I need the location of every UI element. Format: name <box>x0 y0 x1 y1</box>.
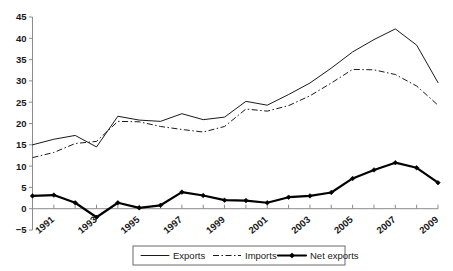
x-axis-tick-label: 2003 <box>289 214 312 236</box>
legend-label-net-exports: Net exports <box>310 250 359 261</box>
data-point-marker <box>265 200 270 205</box>
data-point-marker <box>308 194 313 199</box>
line-chart: −505101520253035404519911993199519971999… <box>0 0 453 271</box>
y-axis-tick-label: −5 <box>16 224 28 235</box>
x-axis-tick-label: 2001 <box>246 213 270 235</box>
y-axis-tick-label: 30 <box>16 75 27 86</box>
y-axis-tick-label: 15 <box>16 139 27 150</box>
y-axis-tick-label: 25 <box>16 97 27 108</box>
y-axis-tick-label: 35 <box>16 54 27 65</box>
x-axis-tick-label: 1997 <box>161 214 184 236</box>
x-axis-tick-label: 1995 <box>118 213 142 235</box>
y-axis-tick-label: 45 <box>16 11 27 22</box>
legend-label-imports: Imports <box>245 250 277 261</box>
x-axis-tick-label: 2007 <box>374 214 397 236</box>
data-point-marker <box>201 193 206 198</box>
data-point-marker <box>30 194 35 199</box>
data-point-marker <box>286 195 291 200</box>
series-line-exports <box>33 29 439 147</box>
x-axis-tick-label: 1991 <box>33 213 57 235</box>
data-point-marker <box>222 198 227 203</box>
y-axis-tick-label: 40 <box>16 33 27 44</box>
series-line-imports <box>33 69 439 157</box>
data-point-marker <box>244 198 249 203</box>
x-axis-tick-label: 1999 <box>204 214 227 236</box>
x-axis-tick-label: 2009 <box>417 214 440 236</box>
data-point-marker <box>137 206 142 211</box>
y-axis-tick-label: 20 <box>16 118 27 129</box>
y-axis-tick-label: 5 <box>21 182 27 193</box>
legend-label-exports: Exports <box>173 250 205 261</box>
y-axis-tick-label: 10 <box>16 161 27 172</box>
x-axis-tick-label: 2005 <box>332 213 356 235</box>
chart-container: −505101520253035404519911993199519971999… <box>0 0 453 271</box>
y-axis-tick-label: 0 <box>21 203 26 214</box>
